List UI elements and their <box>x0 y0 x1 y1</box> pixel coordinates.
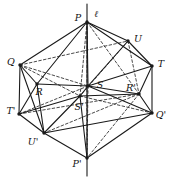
vertex-dot-Tp <box>17 112 20 115</box>
edge-Up-Pp <box>44 133 87 158</box>
vertex-label-Qp: Q' <box>156 110 166 120</box>
figure-canvas <box>0 0 172 180</box>
axis-label-ell: ℓ <box>94 10 98 19</box>
edge-dashed-P-Sp <box>80 22 87 96</box>
vertex-dot-Qp <box>150 111 153 114</box>
edge-P-R <box>37 22 87 84</box>
vertex-dot-U <box>126 39 129 42</box>
vertex-dot-Up <box>42 131 45 134</box>
edge-R-S <box>37 84 88 86</box>
edge-Q-Up <box>20 65 44 133</box>
vertex-label-Sp: S' <box>74 102 83 112</box>
vertex-label-Rp: R' <box>126 83 136 93</box>
vertex-label-P: P <box>75 13 81 23</box>
vertex-label-T: T <box>158 59 164 69</box>
vertex-dot-R <box>35 82 38 85</box>
edge-P-U <box>87 22 128 41</box>
geometry-figure: PQUTRSR'S'T'U'Q'P'ℓ <box>0 0 172 180</box>
vertex-label-Up: U' <box>28 137 39 147</box>
edge-dashed-Sp-Qp <box>80 96 152 113</box>
vertex-dot-S <box>86 84 89 87</box>
edge-Q-Tp <box>19 65 20 114</box>
edge-Qp-Pp <box>87 113 152 158</box>
vertex-label-Pp: P' <box>72 159 81 169</box>
edge-dashed-Q-U <box>20 41 128 65</box>
vertex-dot-Pp <box>85 156 88 159</box>
edge-P-T <box>87 22 152 66</box>
vertex-label-Q: Q <box>7 57 15 67</box>
edge-Q-R <box>20 65 37 84</box>
vertex-dot-T <box>150 64 153 67</box>
vertex-dot-P <box>85 20 88 23</box>
vertex-dot-Rp <box>137 92 140 95</box>
vertex-dot-Sp <box>78 94 81 97</box>
edge-dashed-Rp-Up <box>44 94 139 133</box>
edge-Rp-T <box>139 66 152 94</box>
edge-U-T <box>128 41 152 66</box>
vertex-dot-Q <box>18 63 21 66</box>
vertex-label-U: U <box>134 34 142 44</box>
vertex-label-R: R <box>35 87 42 97</box>
edge-P-Q <box>20 22 87 65</box>
vertex-label-Tp: T' <box>7 106 16 116</box>
vertex-label-S: S <box>97 80 104 90</box>
